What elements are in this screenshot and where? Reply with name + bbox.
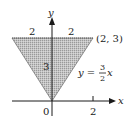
line-equation-var: x [107, 67, 113, 78]
height-label: 3 [43, 61, 49, 72]
origin-label: 0 [43, 106, 49, 117]
x-axis-arrow-icon [109, 98, 116, 104]
y-axis-label: y [47, 7, 54, 18]
triangle-region-diagram: y x 0 2 2 2 3 (2, 3) y = 3 2 x [0, 0, 135, 125]
y-axis-arrow-icon [49, 17, 55, 25]
x-axis-label: x [118, 95, 124, 106]
x-tick-label-2: 2 [90, 106, 96, 117]
top-right-width-label: 2 [68, 26, 74, 37]
line-equation-numerator: 3 [100, 63, 105, 72]
line-equation-denominator: 2 [100, 74, 105, 83]
top-left-width-label: 2 [29, 26, 35, 37]
vertex-label: (2, 3) [96, 33, 123, 44]
line-equation-prefix: y = [77, 67, 95, 78]
